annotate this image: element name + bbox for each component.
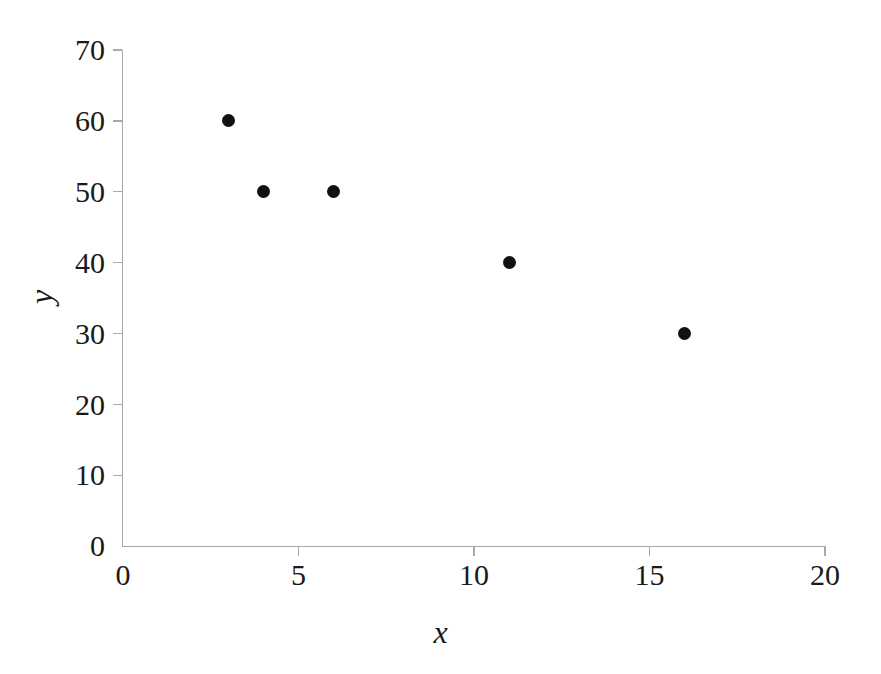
y-axis-tick-label: 30 (75, 319, 105, 349)
x-axis-tick-label: 5 (291, 560, 306, 590)
x-axis-tick-label: 20 (810, 560, 840, 590)
x-axis-tick (298, 547, 299, 556)
x-axis-tick-label: 10 (459, 560, 489, 590)
y-axis-tick-labels: 010203040506070 (0, 0, 105, 674)
x-axis-tick (824, 547, 825, 556)
y-axis-tick-label: 50 (75, 177, 105, 207)
y-axis-tick (113, 191, 122, 192)
x-axis-title: x (0, 616, 881, 648)
y-axis-tick (113, 475, 122, 476)
y-axis-tick-label: 70 (75, 35, 105, 65)
y-axis-tick-label: 40 (75, 248, 105, 278)
x-axis-tick (473, 547, 474, 556)
x-axis-tick-label: 0 (116, 560, 131, 590)
y-axis-tick-label: 10 (75, 460, 105, 490)
y-axis-tick-label: 20 (75, 390, 105, 420)
y-axis-title: y (25, 290, 57, 304)
y-axis-tick-label: 60 (75, 106, 105, 136)
scatter-plot-figure: 010203040506070 05101520 x y (0, 0, 881, 674)
y-axis-tick (113, 120, 122, 121)
y-axis-tick (113, 333, 122, 334)
y-axis-tick (113, 49, 122, 50)
y-axis-tick-label: 0 (90, 531, 105, 561)
x-axis-tick-label: 15 (635, 560, 665, 590)
y-axis-tick (113, 262, 122, 263)
data-point (503, 256, 516, 269)
y-axis-tick (113, 404, 122, 405)
x-axis-tick (649, 547, 650, 556)
